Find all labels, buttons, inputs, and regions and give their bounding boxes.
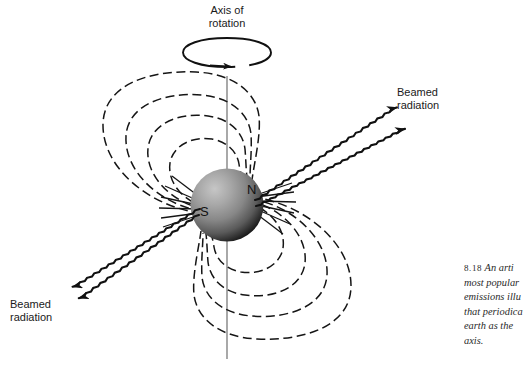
rotation-direction-ellipse (183, 38, 271, 67)
beamed-radiation-top-label-line1: Beamed (397, 86, 438, 98)
axis-of-rotation-label-line2: rotation (209, 17, 246, 29)
axis-of-rotation-label-line1: Axis of (210, 4, 244, 16)
pulsar-diagram: N S Axis of rotation Beamed radiation Be… (0, 0, 525, 366)
caption-line-1-text: An arti (485, 262, 514, 273)
caption-line-1: 8.18 An arti (464, 261, 525, 276)
caption-number: 8.18 (464, 263, 482, 273)
pole-label-north: N (247, 182, 256, 197)
caption-line-3: emissions illu (464, 290, 525, 305)
caption-line-2: most popular (464, 276, 525, 291)
caption-line-4: that periodica (464, 305, 525, 320)
beamed-radiation-top-label-line2: radiation (397, 99, 439, 111)
beamed-radiation-bottom-label-line2: radiation (10, 311, 52, 323)
figure-caption: 8.18 An arti most popular emissions illu… (464, 261, 525, 349)
pole-label-south: S (200, 204, 209, 219)
beamed-radiation-bottom-label-line1: Beamed (10, 298, 51, 310)
caption-line-6: axis. (464, 334, 525, 349)
figure-container: N S Axis of rotation Beamed radiation Be… (0, 0, 525, 366)
beamed-radiation-lower-left (73, 209, 200, 298)
beamed-radiation-upper-right (255, 107, 405, 206)
caption-line-5: earth as the (464, 319, 525, 334)
